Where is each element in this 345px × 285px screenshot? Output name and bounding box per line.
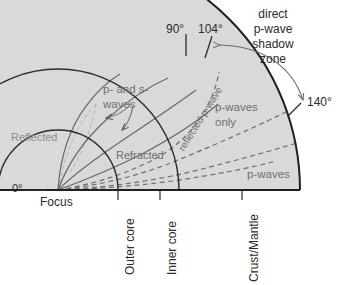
p-waves-only-label-line2: only <box>215 116 236 129</box>
p-waves-only-label-line1: p-waves <box>215 101 258 114</box>
angle-label-104: 104° <box>198 23 223 37</box>
boundary-drop-lines <box>118 190 242 200</box>
outer-core-label: Outer core <box>124 218 138 275</box>
angle-label-0: 0° <box>12 182 23 195</box>
p-and-s-waves-label-line2: waves <box>103 98 136 111</box>
shadow-zone-callout-line2: p-wave <box>238 23 308 37</box>
focus-label: Focus <box>40 196 73 210</box>
refracted-label: Refracted <box>116 149 164 162</box>
reflected-label: Reflected <box>11 131 57 144</box>
inner-core-label: Inner core <box>166 221 180 275</box>
p-waves-label: p-waves <box>247 168 290 181</box>
angle-label-140: 140° <box>307 96 332 110</box>
crust-mantle-label: Crust/Mantle <box>248 214 262 282</box>
shadow-zone-callout-line3: shadow <box>238 38 308 52</box>
shadow-zone-callout-line4: zone <box>238 53 308 67</box>
shadow-zone-callout-line1: direct <box>238 8 308 22</box>
angle-label-90: 90° <box>166 23 184 37</box>
p-and-s-waves-label-line1: p- and s- <box>103 83 148 96</box>
tick-140 <box>288 103 301 116</box>
